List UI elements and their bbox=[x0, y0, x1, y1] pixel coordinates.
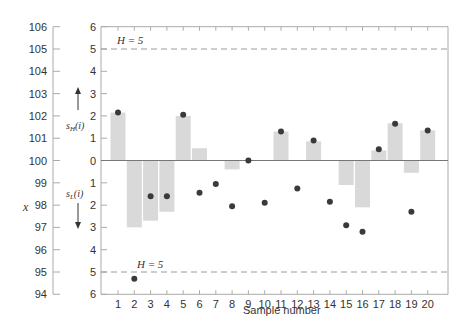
x-tick-label: 2 bbox=[131, 298, 137, 310]
observation-dot bbox=[148, 193, 154, 199]
observation-dot bbox=[115, 110, 121, 116]
observation-dot bbox=[131, 276, 137, 282]
observation-dot bbox=[408, 209, 414, 215]
cusum-bar bbox=[388, 123, 403, 160]
observation-dot bbox=[327, 199, 333, 205]
observation-dot bbox=[164, 193, 170, 199]
right-tick-label: 4 bbox=[90, 65, 96, 77]
cusum-bar bbox=[127, 161, 142, 228]
observation-dot bbox=[180, 112, 186, 118]
cusum-bar bbox=[143, 161, 158, 221]
right-tick-label: 2 bbox=[90, 110, 96, 122]
cusum-bar bbox=[111, 113, 126, 161]
observation-dot bbox=[376, 146, 382, 152]
right-tick-label: 5 bbox=[90, 43, 96, 55]
left-axis: 949596979899100101102103104105106 bbox=[29, 21, 60, 301]
x-tick-label: 19 bbox=[405, 298, 417, 310]
y-axis-label: x bbox=[22, 200, 29, 214]
right-tick-label: 3 bbox=[90, 88, 96, 100]
x-tick-label: 15 bbox=[340, 298, 352, 310]
observation-dot bbox=[425, 127, 431, 133]
x-axis-title: Sample number bbox=[243, 304, 321, 316]
right-tick-label: 1 bbox=[90, 132, 96, 144]
right-tick-label: 6 bbox=[90, 288, 96, 300]
sh-annotation: sH(i) bbox=[66, 87, 85, 133]
x-tick-label: 6 bbox=[196, 298, 202, 310]
x-tick-label: 18 bbox=[389, 298, 401, 310]
cusum-bar bbox=[225, 161, 240, 170]
upper-h-label: H = 5 bbox=[116, 34, 144, 46]
left-tick-label: 103 bbox=[29, 88, 47, 100]
right-tick-label: 3 bbox=[90, 221, 96, 233]
observation-dot bbox=[197, 190, 203, 196]
left-tick-label: 100 bbox=[29, 155, 47, 167]
x-tick-label: 20 bbox=[422, 298, 434, 310]
cusum-bars bbox=[101, 113, 448, 228]
left-tick-label: 104 bbox=[29, 65, 47, 77]
x-tick-label: 5 bbox=[180, 298, 186, 310]
left-tick-label: 96 bbox=[35, 244, 47, 256]
left-tick-label: 105 bbox=[29, 43, 47, 55]
cusum-bar bbox=[355, 161, 370, 208]
cusum-bar bbox=[159, 161, 174, 212]
observation-dot bbox=[343, 222, 349, 228]
cusum-bar bbox=[404, 161, 419, 173]
right-tick-label: 5 bbox=[90, 266, 96, 278]
sl-annotation: sL(i) bbox=[66, 188, 84, 229]
left-tick-label: 101 bbox=[29, 132, 47, 144]
observation-dot bbox=[262, 200, 268, 206]
cusum-chart: 949596979899100101102103104105106 654321… bbox=[0, 0, 468, 331]
left-tick-label: 98 bbox=[35, 199, 47, 211]
observation-dot bbox=[392, 121, 398, 127]
cusum-bar bbox=[420, 130, 435, 160]
x-tick-label: 8 bbox=[229, 298, 235, 310]
cusum-bar bbox=[306, 141, 321, 160]
cusum-bar bbox=[339, 161, 354, 186]
left-tick-label: 94 bbox=[35, 288, 47, 300]
right-tick-label: 4 bbox=[90, 244, 96, 256]
svg-text:sH(i): sH(i) bbox=[66, 120, 85, 133]
cusum-bar bbox=[274, 132, 289, 161]
left-tick-label: 97 bbox=[35, 221, 47, 233]
observation-dot bbox=[311, 137, 317, 143]
cusum-bar bbox=[176, 116, 191, 161]
x-tick-label: 7 bbox=[213, 298, 219, 310]
x-tick-label: 14 bbox=[324, 298, 336, 310]
observation-dot bbox=[360, 229, 366, 235]
left-tick-label: 106 bbox=[29, 21, 47, 33]
right-tick-label: 1 bbox=[90, 177, 96, 189]
observation-dot bbox=[245, 158, 251, 164]
right-tick-label: 2 bbox=[90, 199, 96, 211]
svg-text:sL(i): sL(i) bbox=[66, 188, 84, 201]
right-tick-label: 0 bbox=[90, 155, 96, 167]
x-tick-label: 3 bbox=[148, 298, 154, 310]
right-tick-label: 6 bbox=[90, 21, 96, 33]
observation-dot bbox=[294, 185, 300, 191]
lower-h-label: H = 5 bbox=[136, 258, 164, 270]
x-tick-label: 16 bbox=[356, 298, 368, 310]
left-tick-label: 99 bbox=[35, 177, 47, 189]
observation-dot bbox=[213, 181, 219, 187]
x-tick-label: 1 bbox=[115, 298, 121, 310]
left-tick-label: 95 bbox=[35, 266, 47, 278]
x-tick-label: 17 bbox=[373, 298, 385, 310]
left-tick-label: 102 bbox=[29, 110, 47, 122]
observation-dot bbox=[229, 203, 235, 209]
observation-dot bbox=[278, 129, 284, 135]
cusum-bar bbox=[192, 148, 207, 160]
x-tick-label: 4 bbox=[164, 298, 170, 310]
